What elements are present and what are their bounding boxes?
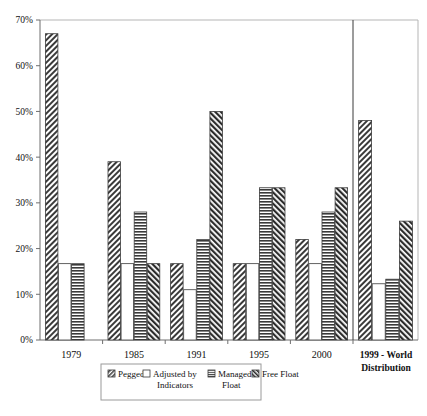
legend-label-1-line2: Indicators (157, 380, 193, 390)
x-tick-label-1991: 1991 (187, 349, 207, 360)
bar-pegged-2000 (296, 239, 309, 340)
bar-adjusted-by-indicators-1985 (121, 264, 134, 340)
x-tick-label-1995: 1995 (249, 349, 269, 360)
x-tick-label-1979: 1979 (61, 349, 81, 360)
legend-label-2-line2: Float (222, 380, 241, 390)
chart-container: 0%10%20%30%40%50%60%70% 1979198519911995… (0, 0, 427, 416)
bar-adjusted-by-indicators-1991 (184, 290, 197, 340)
bar-managed-float-2000 (322, 212, 335, 340)
diagonal-hatch-swatch (108, 370, 115, 377)
panel-label-line1: 1999 - World (360, 350, 413, 360)
y-tick-label: 30% (16, 198, 34, 208)
bar-chart: 0%10%20%30%40%50%60%70% 1979198519911995… (0, 0, 427, 416)
bar-pegged-1999---World-Distribution (359, 121, 372, 340)
bar-adjusted-by-indicators-1979 (59, 264, 72, 340)
reverse-diagonal-hatch-swatch (252, 370, 259, 377)
x-tick-label-2000: 2000 (312, 349, 332, 360)
legend-label-0: Pegged (118, 369, 145, 379)
bar-pegged-1985 (108, 162, 121, 340)
y-tick-label: 40% (16, 153, 34, 163)
x-tick-label-1985: 1985 (124, 349, 144, 360)
bar-pegged-1991 (171, 264, 184, 340)
bar-managed-float-1995 (259, 188, 272, 340)
bar-adjusted-by-indicators-1999---World-Distribution (372, 284, 385, 340)
legend-label-1-line1: Adjusted by (153, 369, 197, 379)
legend-label-2-line1: Managed (218, 369, 252, 379)
bar-free-float-1985 (147, 264, 160, 340)
horizontal-lines-swatch (208, 370, 215, 377)
bar-managed-float-1991 (197, 239, 210, 340)
y-tick-label: 70% (16, 15, 34, 25)
empty-white-swatch (143, 370, 150, 377)
bar-pegged-1979 (45, 34, 58, 340)
y-tick-label: 60% (16, 61, 34, 71)
bar-managed-float-1985 (134, 212, 147, 340)
bar-pegged-1995 (233, 264, 246, 340)
bar-free-float-1995 (273, 188, 286, 340)
bar-adjusted-by-indicators-1995 (246, 264, 258, 340)
panel-label-line2: Distribution (361, 363, 411, 373)
y-tick-label: 20% (16, 244, 34, 254)
bar-managed-float-1979 (72, 264, 85, 340)
bar-free-float-1999---World-Distribution (399, 221, 412, 340)
bar-adjusted-by-indicators-2000 (309, 264, 322, 340)
legend-label-3: Free Float (262, 369, 299, 379)
y-tick-label: 50% (16, 107, 34, 117)
bar-free-float-2000 (335, 188, 348, 340)
y-tick-label: 0% (20, 335, 33, 345)
bar-managed-float-1999---World-Distribution (386, 279, 399, 340)
bar-free-float-1991 (210, 111, 223, 340)
y-tick-label: 10% (16, 290, 34, 300)
